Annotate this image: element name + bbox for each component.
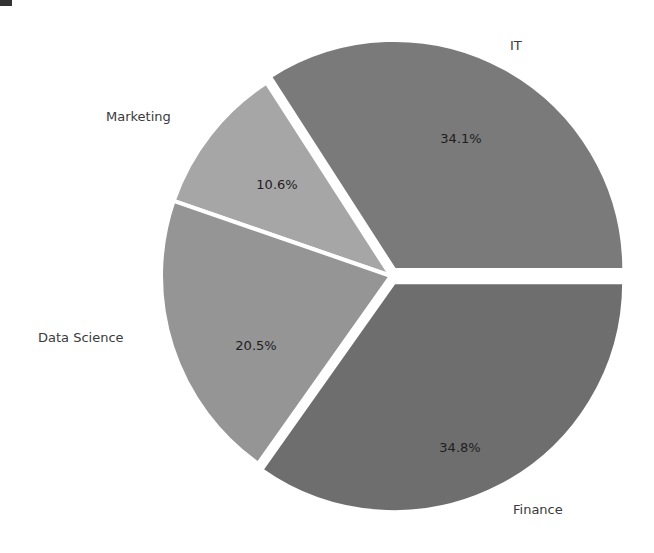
slice-label-marketing: Marketing — [106, 109, 171, 124]
pie-chart: IT Marketing Data Science Finance 34.1% … — [0, 0, 654, 553]
slice-label-finance: Finance — [513, 502, 563, 517]
slice-pct-marketing: 10.6% — [256, 177, 297, 192]
pie-slices — [161, 40, 624, 512]
slice-label-data-science: Data Science — [38, 330, 124, 345]
slice-pct-it: 34.1% — [440, 131, 481, 146]
slice-label-it: IT — [510, 38, 522, 53]
slice-pct-data-science: 20.5% — [235, 338, 276, 353]
slice-pct-finance: 34.8% — [439, 440, 480, 455]
